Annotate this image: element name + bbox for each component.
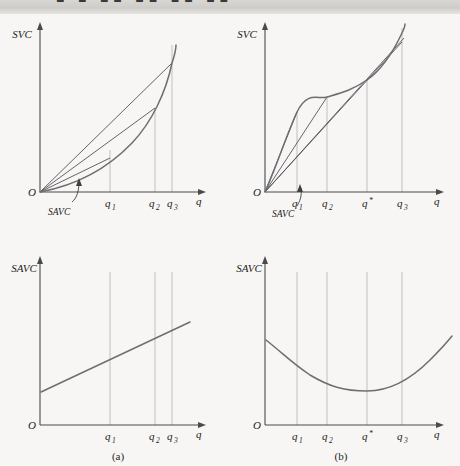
panel-top-right: SVC O q SAVC q 1 q 2 q * q 3 [237, 22, 444, 219]
origin-label: O [28, 419, 36, 431]
y-axis-arrow [37, 22, 43, 30]
ray-to-q2 [40, 108, 155, 192]
x-axis-label-q: q [196, 428, 202, 440]
tick-sub-q1: 1 [112, 203, 116, 212]
savc-line-linear [41, 322, 190, 392]
tick-sub-q2: 2 [156, 203, 160, 212]
y-axis-arrow [262, 22, 268, 30]
x-axis-label-q: q [434, 428, 440, 440]
panel-caption-b: (b) [335, 450, 348, 463]
origin-label: O [253, 419, 261, 431]
savc-curve-ushaped [266, 336, 452, 391]
y-axis-arrow [37, 256, 43, 264]
tick-sub-q2: 2 [329, 436, 333, 445]
y-axis-arrow [262, 256, 268, 264]
tick-sub-q3: 3 [403, 436, 408, 445]
svc-curve-convex [40, 45, 176, 192]
figure-container: ■ ■ ■■ ■■ ■■ ■■ SVC O [0, 0, 460, 466]
tick-sub-q2: 2 [156, 436, 160, 445]
tick-label-q1: q [292, 197, 298, 209]
panel-top-left: SVC O q SAVC q 1 q 2 q 3 [12, 22, 206, 217]
panel-caption-a: (a) [112, 450, 125, 463]
tick-sub-q1: 1 [299, 436, 303, 445]
ray-tangent-qstar [265, 38, 404, 192]
tick-label-q1: q [292, 430, 298, 442]
tick-label-q2: q [322, 197, 328, 209]
y-axis-label-svc: SVC [12, 28, 32, 40]
tick-sub-qstar: * [369, 429, 373, 438]
ray-to-q2 [265, 97, 327, 192]
tick-label-qstar: q [362, 197, 368, 209]
tick-label-q3: q [397, 430, 403, 442]
ray-to-q3 [40, 63, 172, 192]
origin-label: O [28, 186, 36, 198]
x-axis-label-q: q [434, 195, 440, 207]
tick-sub-q3: 3 [173, 436, 178, 445]
tick-sub-q1: 1 [112, 436, 116, 445]
panel-bottom-right: SAVC O q q 1 q 2 q * q 3 (b) [236, 256, 452, 463]
tick-sub-q3: 3 [403, 203, 408, 212]
x-axis-label-q: q [196, 195, 202, 207]
svc-curve-sshaped [265, 24, 405, 192]
annotation-savc: SAVC [48, 207, 71, 217]
y-axis-label-savc: SAVC [11, 262, 37, 274]
tick-label-q3: q [167, 430, 173, 442]
tick-label-q1: q [105, 197, 111, 209]
tick-label-q3: q [167, 197, 173, 209]
annotation-savc: SAVC [272, 209, 295, 219]
origin-label: O [253, 186, 261, 198]
tick-label-q1: q [105, 430, 111, 442]
tick-label-q3: q [397, 197, 403, 209]
tick-sub-q1: 1 [299, 203, 303, 212]
tick-sub-q3: 3 [173, 203, 178, 212]
tick-label-q2: q [322, 430, 328, 442]
savc-leader-arrow [297, 184, 303, 192]
tick-label-qstar: q [362, 430, 368, 442]
y-axis-label-savc: SAVC [236, 262, 262, 274]
tick-label-q2: q [149, 197, 155, 209]
tick-sub-qstar: * [369, 196, 373, 205]
tick-sub-q2: 2 [329, 203, 333, 212]
tick-label-q2: q [149, 430, 155, 442]
y-axis-label-svc: SVC [237, 28, 257, 40]
ray-to-q1 [40, 158, 110, 192]
cost-curves-figure: SVC O q SAVC q 1 q 2 q 3 [0, 0, 460, 466]
panel-bottom-left: SAVC O q q 1 q 2 q 3 (a) [11, 256, 206, 463]
